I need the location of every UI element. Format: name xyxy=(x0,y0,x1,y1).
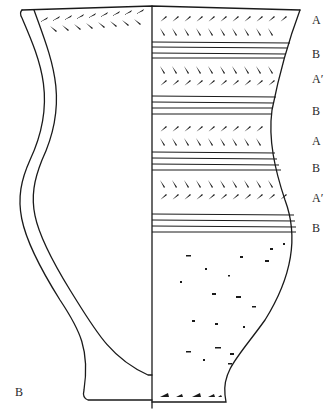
zone-label: B xyxy=(312,162,320,174)
zone-label: B xyxy=(312,105,320,117)
zone-label: A xyxy=(312,135,321,147)
groove-band xyxy=(152,96,276,114)
zone-label: A′ xyxy=(312,73,323,85)
groove-band xyxy=(152,42,290,58)
zone-label: A xyxy=(312,14,321,26)
groove-band xyxy=(152,214,296,232)
zone-label: A′ xyxy=(312,192,323,204)
figure-label: B xyxy=(15,385,23,400)
decoration-zone-A-top xyxy=(40,9,144,32)
decoration-row xyxy=(160,126,263,146)
zone-label: B xyxy=(312,48,320,60)
zone-label: B xyxy=(312,222,320,234)
lower-body-stipple xyxy=(160,243,285,397)
groove-band xyxy=(152,152,281,170)
outer-profile-right xyxy=(152,10,300,402)
decoration-row xyxy=(160,180,287,200)
decoration-row xyxy=(160,66,275,86)
outer-profile-left xyxy=(20,10,152,400)
inner-profile-left xyxy=(33,10,152,375)
pottery-drawing xyxy=(0,0,330,413)
rim-line xyxy=(22,6,300,10)
decoration-row xyxy=(160,16,287,36)
